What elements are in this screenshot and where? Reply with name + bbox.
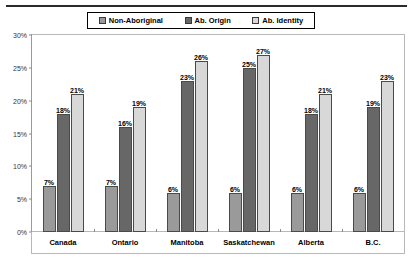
y-axis-tick-label: 15% [13, 130, 27, 137]
bar[interactable]: 21% [71, 94, 84, 232]
bar[interactable]: 6% [229, 193, 242, 232]
bar[interactable]: 19% [367, 107, 380, 232]
x-axis-category-band: CanadaOntarioManitobaSaskatchewanAlberta… [31, 232, 405, 254]
bar-group: 6%23%26% [156, 35, 218, 232]
swatch-ab-identity-icon [252, 17, 259, 24]
bar-value-label: 6% [230, 186, 240, 193]
bar[interactable]: 16% [119, 127, 132, 232]
x-axis-category-label: Canada [32, 232, 94, 253]
y-axis-tick-label: 10% [13, 163, 27, 170]
legend-item-non-aboriginal: Non-Aboriginal [99, 16, 163, 25]
plot-area: 0%5%10%15%20%25%30% 7%18%21%7%16%19%6%23… [32, 35, 404, 232]
swatch-non-aboriginal-icon [99, 17, 106, 24]
bar-value-label: 6% [354, 186, 364, 193]
bar[interactable]: 27% [257, 55, 270, 232]
legend-label-non-aboriginal: Non-Aboriginal [109, 16, 163, 25]
bar-value-label: 7% [44, 179, 54, 186]
bar-value-label: 19% [366, 100, 380, 107]
bar-value-label: 23% [380, 74, 394, 81]
bar-value-label: 18% [56, 107, 70, 114]
bar-value-label: 19% [132, 100, 146, 107]
x-axis-tick-mark [156, 229, 157, 232]
x-axis-tick-mark [342, 229, 343, 232]
x-axis-category-label: Manitoba [156, 232, 218, 253]
x-axis-tick-mark [94, 229, 95, 232]
bar-value-label: 7% [106, 179, 116, 186]
bar[interactable]: 7% [105, 186, 118, 232]
swatch-ab-origin-icon [185, 17, 192, 24]
bar[interactable]: 6% [353, 193, 366, 232]
y-axis-tick-label: 0% [17, 229, 27, 236]
x-axis-tick-mark [280, 229, 281, 232]
x-axis-category-label: Alberta [280, 232, 342, 253]
bar[interactable]: 26% [195, 61, 208, 232]
bar-value-label: 6% [292, 186, 302, 193]
legend-item-ab-identity: Ab. Identity [252, 16, 303, 25]
legend-item-ab-origin: Ab. Origin [185, 16, 231, 25]
bar[interactable]: 19% [133, 107, 146, 232]
x-axis-category-label: Ontario [94, 232, 156, 253]
bar-group: 6%18%21% [280, 35, 342, 232]
bar[interactable]: 25% [243, 68, 256, 232]
bar-value-label: 6% [168, 186, 178, 193]
bar[interactable]: 6% [291, 193, 304, 232]
bar[interactable]: 23% [181, 81, 194, 232]
x-axis-category-label: Saskatchewan [218, 232, 280, 253]
legend-label-ab-identity: Ab. Identity [262, 16, 303, 25]
bar-group: 6%19%23% [342, 35, 404, 232]
y-axis-tick-label: 25% [13, 64, 27, 71]
legend-label-ab-origin: Ab. Origin [195, 16, 231, 25]
bar[interactable]: 18% [305, 114, 318, 232]
grouped-bar-chart: Non-Aboriginal Ab. Origin Ab. Identity 0… [0, 0, 413, 267]
bar-value-label: 21% [70, 87, 84, 94]
bar[interactable]: 21% [319, 94, 332, 232]
bar-value-label: 25% [242, 61, 256, 68]
bar[interactable]: 18% [57, 114, 70, 232]
bar-group: 7%18%21% [32, 35, 94, 232]
bar-group: 6%25%27% [218, 35, 280, 232]
chart-legend: Non-Aboriginal Ab. Origin Ab. Identity [87, 12, 315, 29]
y-axis-tick-label: 30% [13, 32, 27, 39]
bar-group: 7%16%19% [94, 35, 156, 232]
bar-value-label: 18% [304, 107, 318, 114]
y-axis-tick-label: 20% [13, 97, 27, 104]
bar[interactable]: 6% [167, 193, 180, 232]
bar-value-label: 26% [194, 54, 208, 61]
bar[interactable]: 23% [381, 81, 394, 232]
bar[interactable]: 7% [43, 186, 56, 232]
bar-value-label: 16% [118, 120, 132, 127]
bar-value-label: 27% [256, 48, 270, 55]
bar-value-label: 23% [180, 74, 194, 81]
x-axis-category-label: B.C. [342, 232, 404, 253]
y-axis-tick-label: 5% [17, 196, 27, 203]
x-axis-tick-mark [218, 229, 219, 232]
bar-value-label: 21% [318, 87, 332, 94]
